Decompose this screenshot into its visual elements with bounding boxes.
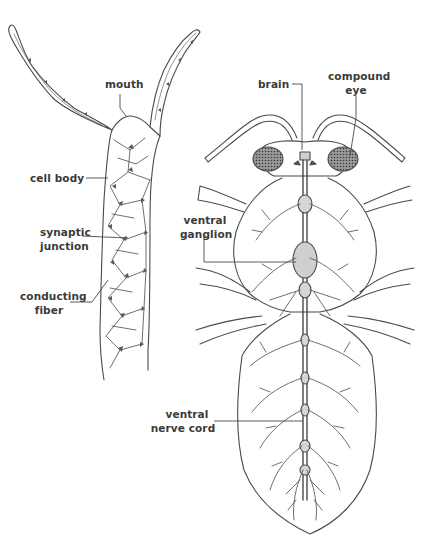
hydra-left-tentacle xyxy=(9,25,112,130)
insect-ventral-ganglion xyxy=(293,242,317,278)
insect-left-antenna xyxy=(205,115,297,162)
insect-right-compound-eye xyxy=(328,147,358,171)
insect-right-antenna xyxy=(313,115,405,162)
label-ventral-ganglion-line1: ventral xyxy=(182,214,228,227)
leader-mouth xyxy=(120,94,126,116)
insect-leg-hind-right xyxy=(344,316,414,344)
hydra-mouth-dome xyxy=(112,116,150,130)
hydra-leader-lines xyxy=(70,94,128,302)
label-compound-eye-line2: eye xyxy=(328,84,384,97)
insect-drawing xyxy=(196,115,414,534)
insect-leg-mid-right xyxy=(354,268,414,300)
label-conducting-fiber-line2: fiber xyxy=(20,304,78,317)
label-ventral-ganglion-line2: ganglion xyxy=(180,228,230,241)
insect-leg-hind-left xyxy=(196,316,266,344)
insect-left-compound-eye xyxy=(253,147,283,171)
insect-brain xyxy=(300,152,310,160)
insect-leg-mid-left xyxy=(196,268,256,300)
label-ventral-nerve-cord-line1: ventral xyxy=(160,408,214,421)
hydra-body-right xyxy=(148,136,160,370)
label-synaptic-junction-line2: junction xyxy=(40,240,82,253)
insect-leg-front-left xyxy=(198,186,246,212)
hydra-body-left xyxy=(100,130,112,380)
label-synaptic-junction-line1: synaptic xyxy=(40,226,82,239)
label-brain: brain xyxy=(258,78,289,91)
nervous-system-diagram: mouth cell body synaptic junction conduc… xyxy=(0,0,427,544)
leader-brain xyxy=(292,84,302,150)
hydra-nerve-net xyxy=(106,138,150,368)
label-ventral-nerve-cord-line2: nerve cord xyxy=(150,422,216,435)
label-cell-body: cell body xyxy=(30,172,84,185)
insect-leg-front-right xyxy=(364,186,412,212)
label-compound-eye-line1: compound xyxy=(328,70,384,83)
label-mouth: mouth xyxy=(105,78,144,91)
hydra-right-tentacle xyxy=(150,30,200,136)
insect-leader-lines xyxy=(204,84,356,421)
leader-compound-eye xyxy=(350,96,356,156)
label-conducting-fiber-line1: conducting xyxy=(20,290,78,303)
